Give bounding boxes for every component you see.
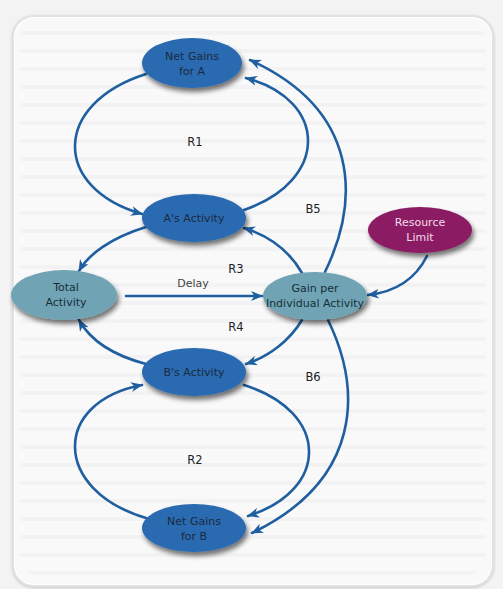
edge-bactivity-to-netgainsb <box>244 385 309 516</box>
node-net-gains-b-line1: Net Gains <box>167 515 221 528</box>
loop-label-r2: R2 <box>187 453 202 467</box>
node-b-activity-label: B's Activity <box>164 366 225 379</box>
node-gain-line2: Individual Activity <box>266 297 365 310</box>
node-total-activity: Total Activity <box>11 270 117 320</box>
edge-gain-to-aactivity <box>244 228 302 273</box>
node-gain-line1: Gain per <box>291 282 339 295</box>
loop-label-b5: B5 <box>305 202 320 216</box>
node-total-activity-line1: Total <box>52 281 79 294</box>
edge-aactivity-to-total <box>79 227 146 271</box>
node-gain-per-individual-activity: Gain per Individual Activity <box>263 272 367 320</box>
loop-label-r3: R3 <box>228 262 243 276</box>
node-net-gains-b: Net Gains for B <box>142 504 246 552</box>
node-b-activity: B's Activity <box>142 348 246 396</box>
causal-loop-diagram: Net Gains for A A's Activity Total Activ… <box>0 0 503 589</box>
edge-bactivity-to-total <box>79 320 146 364</box>
node-total-activity-line2: Activity <box>45 296 87 309</box>
edge-netgainsb-to-bactivity <box>75 385 146 518</box>
node-a-activity-label: A's Activity <box>164 212 225 225</box>
loop-label-r4: R4 <box>228 320 243 334</box>
node-net-gains-b-line2: for B <box>181 530 207 543</box>
node-resource-limit-line2: Limit <box>406 231 434 244</box>
node-net-gains-a-line2: for A <box>179 65 206 78</box>
edge-netgainsa-to-aactivity <box>75 74 146 214</box>
diagram-stage: Net Gains for A A's Activity Total Activ… <box>0 0 503 589</box>
loop-label-b6: B6 <box>305 370 320 384</box>
edge-gain-to-bactivity <box>246 320 302 364</box>
edge-resourcelimit-to-gain <box>368 256 427 295</box>
node-net-gains-a-line1: Net Gains <box>165 50 219 63</box>
edges <box>75 60 427 533</box>
edge-gain-to-netgainsb <box>252 320 348 533</box>
loop-label-r1: R1 <box>187 135 202 149</box>
edge-aactivity-to-netgainsa <box>244 78 308 210</box>
edge-label-delay: Delay <box>177 277 209 290</box>
node-resource-limit-line1: Resource <box>395 216 446 229</box>
node-a-activity: A's Activity <box>142 194 246 242</box>
node-net-gains-a: Net Gains for A <box>142 38 242 88</box>
node-resource-limit: Resource Limit <box>368 207 472 253</box>
edge-gain-to-netgainsa <box>250 60 346 272</box>
